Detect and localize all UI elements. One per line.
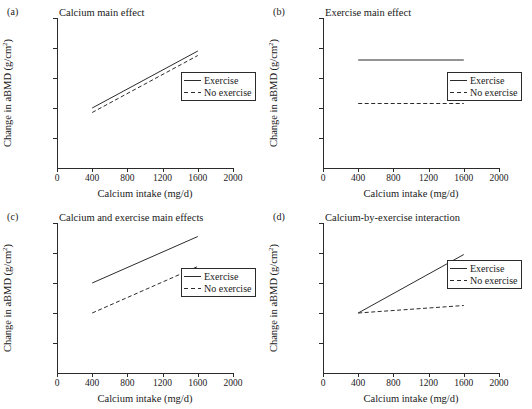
x-tick-d-800 [393,373,394,377]
y-axis-title-a: Change in aBMD (g/cm2) [1,13,14,173]
y-axis-title-d: Change in aBMD (g/cm2) [267,218,280,378]
panel-b: (b) Exercise main effect Change in aBMD … [266,0,532,204]
x-axis-title-c: Calcium intake (mg/d) [57,393,233,404]
y-tick-c [53,343,57,344]
y-axis-title-b: Change in aBMD (g/cm2) [267,13,280,173]
legend-row-no-exercise-b: No exercise [450,87,517,99]
x-tick-label-a-2000: 2000 [224,173,243,183]
y-tick-a [53,138,57,139]
x-tick-b-2000 [499,168,500,172]
x-tick-label-a-1200: 1200 [153,173,172,183]
x-tick-b-400 [358,168,359,172]
panel-title-a: Calcium main effect [59,7,145,18]
y-tick-b [319,18,323,19]
legend-row-no-exercise-d: No exercise [450,275,517,287]
x-axis-title-b: Calcium intake (mg/d) [323,188,499,199]
x-tick-label-b-2000: 2000 [490,173,509,183]
x-tick-label-d-1600: 1600 [454,378,473,388]
y-axis-title-c: Change in aBMD (g/cm2) [1,218,14,378]
legend-row-no-exercise-a: No exercise [184,87,251,99]
legend-row-exercise-c: Exercise [184,271,251,283]
x-tick-label-d-1200: 1200 [419,378,438,388]
y-tick-a [53,18,57,19]
x-tick-label-a-0: 0 [55,173,60,183]
legend-row-no-exercise-c: No exercise [184,283,251,295]
legend-label-exercise-c: Exercise [204,271,238,283]
solid-line-icon [184,272,201,281]
x-tick-label-d-2000: 2000 [490,378,509,388]
legend-row-exercise-a: Exercise [184,75,251,87]
y-tick-a [53,108,57,109]
series-svg-c [57,223,233,373]
solid-line-icon [184,76,201,85]
series-svg-d [323,223,499,373]
legend-label-exercise-a: Exercise [204,75,238,87]
legend-label-no-exercise-b: No exercise [470,87,517,99]
x-tick-d-400 [358,373,359,377]
x-tick-a-2000 [233,168,234,172]
panel-title-d: Calcium-by-exercise interaction [325,212,460,223]
solid-line-icon [450,76,467,85]
x-tick-a-1200 [163,168,164,172]
legend-label-no-exercise-c: No exercise [204,283,251,295]
x-tick-a-800 [127,168,128,172]
x-tick-b-800 [393,168,394,172]
y-tick-d [319,343,323,344]
x-tick-b-0 [323,168,324,172]
y-tick-d [319,253,323,254]
solid-line-icon [450,264,467,273]
y-tick-b [319,108,323,109]
x-tick-label-a-800: 800 [120,173,134,183]
figure-four-panel-linecharts: (a) Calcium main effect Change in aBMD (… [0,0,532,409]
x-tick-d-1600 [464,373,465,377]
y-tick-b [319,48,323,49]
legend-c: Exercise No exercise [181,268,256,297]
x-tick-label-d-400: 400 [351,378,365,388]
x-tick-label-b-0: 0 [321,173,326,183]
series-line-no-exercise-d [358,306,464,314]
dashed-line-icon [450,88,467,97]
x-tick-d-2000 [499,373,500,377]
legend-a: Exercise No exercise [181,72,256,101]
x-tick-c-400 [92,373,93,377]
x-tick-label-c-1200: 1200 [153,378,172,388]
x-tick-label-a-400: 400 [85,173,99,183]
panel-d: (d) Calcium-by-exercise interaction Chan… [266,205,532,409]
legend-label-exercise-b: Exercise [470,75,504,87]
legend-label-no-exercise-d: No exercise [470,275,517,287]
x-tick-d-1200 [429,373,430,377]
dashed-line-icon [450,276,467,285]
x-tick-c-800 [127,373,128,377]
x-axis-title-d: Calcium intake (mg/d) [323,393,499,404]
x-axis-line-d [323,373,499,374]
x-tick-c-0 [57,373,58,377]
x-tick-a-0 [57,168,58,172]
x-tick-label-a-1600: 1600 [188,173,207,183]
x-axis-line-a [57,168,233,169]
y-tick-d [319,223,323,224]
x-tick-b-1200 [429,168,430,172]
x-tick-a-1600 [198,168,199,172]
x-tick-label-b-800: 800 [386,173,400,183]
y-tick-b [319,78,323,79]
x-tick-label-c-800: 800 [120,378,134,388]
x-tick-label-b-1200: 1200 [419,173,438,183]
panel-title-b: Exercise main effect [325,7,411,18]
y-tick-c [53,283,57,284]
panel-title-c: Calcium and exercise main effects [59,212,203,223]
x-tick-label-b-1600: 1600 [454,173,473,183]
panel-c: (c) Calcium and exercise main effects Ch… [0,205,266,409]
x-tick-label-b-400: 400 [351,173,365,183]
dashed-line-icon [184,284,201,293]
x-tick-label-d-800: 800 [386,378,400,388]
x-tick-label-d-0: 0 [321,378,326,388]
legend-row-exercise-b: Exercise [450,75,517,87]
x-tick-label-c-2000: 2000 [224,378,243,388]
x-axis-line-b [323,168,499,169]
y-tick-d [319,283,323,284]
y-tick-d [319,313,323,314]
y-tick-c [53,253,57,254]
x-tick-label-c-400: 400 [85,378,99,388]
dashed-line-icon [184,88,201,97]
legend-label-no-exercise-a: No exercise [204,87,251,99]
